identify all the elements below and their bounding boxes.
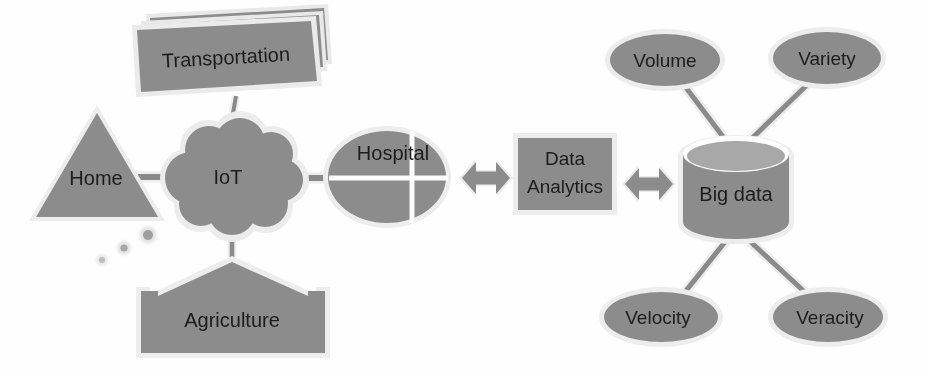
node-transportation[interactable]: Transportation xyxy=(132,4,332,97)
node-iot[interactable]: IoT xyxy=(160,111,309,242)
signal-dot-small xyxy=(96,254,108,266)
node-label-veracity: Veracity xyxy=(796,307,864,328)
node-label-home: Home xyxy=(69,167,122,189)
signal-dot-medium xyxy=(117,241,131,255)
node-label-hospital: Hospital xyxy=(357,142,429,164)
node-label-big-data: Big data xyxy=(699,183,773,205)
node-label-agriculture: Agriculture xyxy=(184,309,280,331)
node-label-variety: Variety xyxy=(798,48,856,69)
node-hospital[interactable]: Hospital xyxy=(323,126,451,228)
node-veracity[interactable]: Veracity xyxy=(768,287,888,347)
node-label-data-analytics-line1: Data xyxy=(545,148,586,169)
decoration-signal-dots xyxy=(96,227,157,267)
node-label-iot: IoT xyxy=(214,166,243,188)
node-variety[interactable]: Variety xyxy=(768,27,886,89)
node-data-analytics[interactable]: Data Analytics xyxy=(513,133,617,215)
node-volume[interactable]: Volume xyxy=(605,29,725,91)
node-label-velocity: Velocity xyxy=(625,307,691,328)
node-home[interactable]: Home xyxy=(29,105,165,221)
architecture-diagram: Transportation Home xyxy=(0,0,926,374)
node-big-data[interactable]: Big data xyxy=(678,135,794,244)
node-agriculture[interactable]: Agriculture xyxy=(136,256,330,358)
signal-dot-large xyxy=(140,227,157,244)
node-label-volume: Volume xyxy=(633,50,696,71)
node-label-data-analytics-line2: Analytics xyxy=(527,176,603,197)
connector-data-analytics-big-data xyxy=(622,166,676,202)
diagram-canvas: Transportation Home xyxy=(0,0,926,374)
node-velocity[interactable]: Velocity xyxy=(599,287,723,347)
connector-hospital-data-analytics xyxy=(459,160,513,196)
